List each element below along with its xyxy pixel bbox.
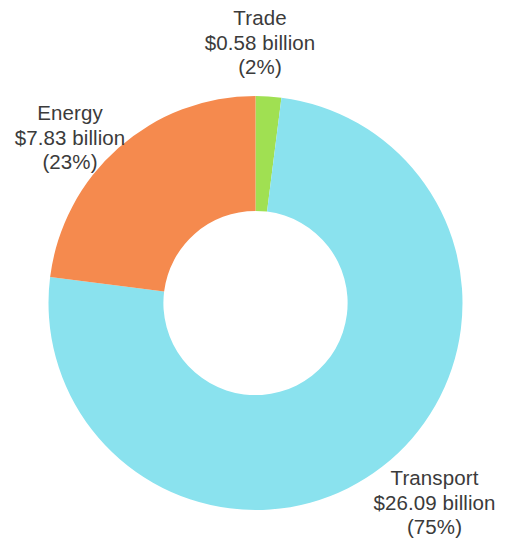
slice-label-transport-name: Transport	[358, 466, 511, 491]
slice-label-trade-percent: (2%)	[165, 55, 355, 80]
slice-label-energy: Energy $7.83 billion (23%)	[0, 101, 140, 175]
slice-label-energy-percent: (23%)	[0, 150, 140, 175]
slice-label-trade-name: Trade	[165, 6, 355, 31]
slice-label-transport-value: $26.09 billion	[358, 491, 511, 516]
slice-label-transport: Transport $26.09 billion (75%)	[358, 466, 511, 540]
slice-label-trade: Trade $0.58 billion (2%)	[165, 6, 355, 80]
slice-label-transport-percent: (75%)	[358, 515, 511, 540]
slice-label-energy-value: $7.83 billion	[0, 126, 140, 151]
slice-label-energy-name: Energy	[0, 101, 140, 126]
slice-label-trade-value: $0.58 billion	[165, 31, 355, 56]
donut-chart: Trade $0.58 billion (2%) Energy $7.83 bi…	[0, 0, 511, 541]
donut-chart-graphic	[0, 0, 511, 541]
